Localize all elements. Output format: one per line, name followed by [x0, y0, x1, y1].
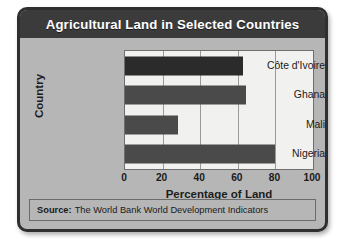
y-axis-tick-label: Côte d'Ivoire — [20, 59, 325, 70]
x-axis-tick-label: 60 — [231, 172, 242, 183]
x-axis-tick-labels: 020406080100 — [124, 172, 314, 188]
chart-plot-region: Country 020406080100 Percentage of Land … — [20, 38, 325, 206]
page-title: Agricultural Land in Selected Countries — [46, 17, 300, 32]
x-axis-tick-label: 20 — [156, 172, 167, 183]
source-value: The World Bank World Development Indicat… — [75, 205, 268, 215]
chart-title-bar: Agricultural Land in Selected Countries — [20, 10, 325, 38]
source-note: Source: The World Bank World Development… — [29, 199, 316, 221]
y-axis-tick-label: Ghana — [20, 89, 325, 100]
x-axis-tick-label: 80 — [269, 172, 280, 183]
x-axis-tick-label: 100 — [304, 172, 321, 183]
x-axis-tick-label: 0 — [121, 172, 127, 183]
chart-card: Agricultural Land in Selected Countries … — [17, 7, 328, 232]
y-axis-tick-label: Nigeria — [20, 148, 325, 159]
y-axis-tick-label: Mali — [20, 118, 325, 129]
source-label: Source: — [37, 205, 72, 215]
x-axis-tick-label: 40 — [194, 172, 205, 183]
